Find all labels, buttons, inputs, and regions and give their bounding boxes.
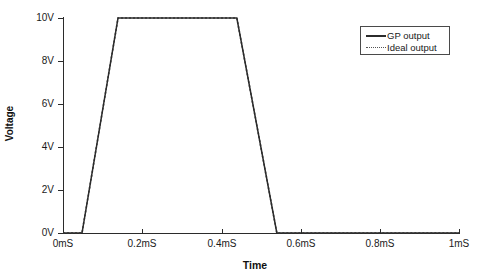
legend-label: GP output xyxy=(387,30,430,41)
legend-label: Ideal output xyxy=(387,42,437,53)
legend-swatch-dotted-line-icon xyxy=(365,42,387,53)
legend-item-gp-output: GP output xyxy=(365,30,445,41)
legend-item-ideal-output: Ideal output xyxy=(365,42,445,53)
chart-legend: GP output Ideal output xyxy=(360,26,450,55)
chart-figure: 10V 8V 6V 4V 2V 0V 0mS 0.2mS 0.4mS 0.6mS… xyxy=(0,0,481,279)
legend-swatch-solid-line-icon xyxy=(365,30,387,41)
